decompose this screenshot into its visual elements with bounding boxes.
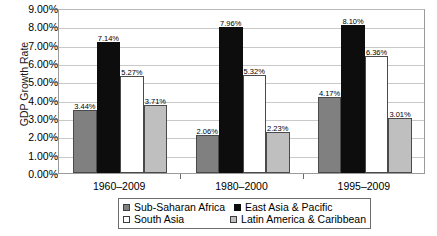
legend-label: Sub-Saharan Africa — [134, 201, 225, 213]
bar-value-label: 2.06% — [197, 127, 218, 136]
x-axis-category-label: 1960–2009 — [93, 180, 146, 192]
legend-label: East Asia & Pacific — [245, 201, 333, 213]
bar-value-label: 7.96% — [220, 19, 241, 28]
bar-value-label: 2.23% — [267, 124, 288, 133]
bar — [266, 132, 290, 173]
legend-item-south-asia[interactable]: South Asia — [123, 213, 230, 225]
legend-item-latin-america-caribbean[interactable]: Latin America & Caribbean — [230, 213, 366, 225]
bar-value-label: 8.10% — [342, 17, 363, 26]
chart-container: GDP Growth Rate 0.00%1.00%2.00%3.00%4.00… — [0, 0, 437, 236]
bar-value-label: 5.32% — [244, 67, 265, 76]
plot-area: 3.44%7.14%5.27%3.71%2.06%7.96%5.32%2.23%… — [58, 9, 425, 174]
bar — [97, 42, 121, 173]
bar — [243, 75, 267, 173]
bar — [196, 135, 220, 173]
bar-value-label: 4.17% — [319, 89, 340, 98]
legend-swatch-icon — [230, 216, 237, 223]
legend-label: South Asia — [134, 213, 184, 225]
bar — [73, 110, 97, 173]
x-axis-category-label: 1995–2009 — [338, 180, 391, 192]
chart-legend: Sub-Saharan Africa East Asia & Pacific S… — [118, 198, 371, 229]
x-axis-tick-mark — [303, 174, 304, 179]
x-axis-category-label: 1980–2000 — [215, 180, 268, 192]
bar-value-label: 3.44% — [74, 102, 95, 111]
bar — [388, 118, 412, 173]
legend-item-east-asia-pacific[interactable]: East Asia & Pacific — [234, 201, 333, 213]
bar-value-label: 7.14% — [98, 34, 119, 43]
bar-value-label: 3.71% — [145, 97, 166, 106]
x-axis-tick-mark — [180, 174, 181, 179]
legend-row: South Asia Latin America & Caribbean — [123, 213, 366, 225]
bar-value-label: 3.01% — [389, 110, 410, 119]
y-axis-tick-mark — [52, 174, 58, 175]
bar — [318, 97, 342, 173]
legend-row: Sub-Saharan Africa East Asia & Pacific — [123, 201, 366, 213]
bar-value-label: 6.36% — [366, 48, 387, 57]
legend-item-sub-saharan-africa[interactable]: Sub-Saharan Africa — [123, 201, 234, 213]
bar-value-label: 5.27% — [121, 68, 142, 77]
y-axis-tick-labels: 0.00%1.00%2.00%3.00%4.00%5.00%6.00%7.00%… — [14, 0, 58, 175]
bar — [144, 105, 168, 173]
legend-swatch-icon — [234, 204, 241, 211]
bar — [120, 76, 144, 173]
legend-swatch-icon — [123, 204, 130, 211]
bar — [365, 56, 389, 173]
legend-swatch-icon — [123, 216, 130, 223]
bar — [219, 27, 243, 173]
bar — [341, 25, 365, 174]
legend-label: Latin America & Caribbean — [241, 213, 366, 225]
